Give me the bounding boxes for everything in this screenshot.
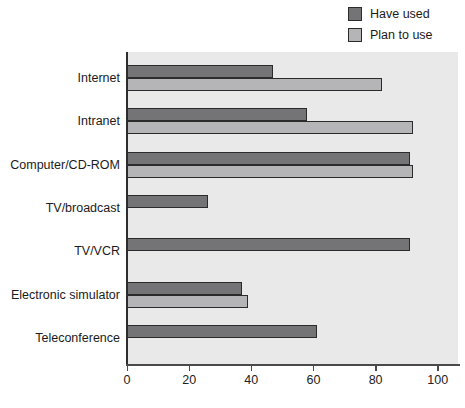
category-label-internet: Internet: [0, 70, 120, 86]
bar-have-used-intranet: [127, 108, 307, 121]
legend-item-plan-to-use: Plan to use: [348, 28, 433, 42]
legend-item-have-used: Have used: [348, 7, 433, 21]
category-label-computer-cd-rom: Computer/CD-ROM: [0, 157, 120, 173]
y-axis-line: [126, 52, 128, 365]
x-tick-mark-0: [127, 366, 129, 371]
x-tick-label-60: 60: [293, 373, 333, 387]
x-tick-label-40: 40: [231, 373, 271, 387]
plot-area: 020406080100: [127, 52, 458, 365]
bar-have-used-computer-cd-rom: [127, 152, 410, 165]
category-label-intranet: Intranet: [0, 113, 120, 129]
x-tick-mark-100: [437, 366, 439, 371]
bar-have-used-electronic-simulator: [127, 282, 242, 295]
legend-swatch-plan-to-use: [348, 28, 362, 42]
legend-swatch-have-used: [348, 7, 362, 21]
x-tick-label-20: 20: [169, 373, 209, 387]
x-tick-label-100: 100: [418, 373, 458, 387]
category-label-tv-broadcast: TV/broadcast: [0, 200, 120, 216]
bar-plan-to-use-intranet: [127, 121, 413, 134]
x-tick-label-80: 80: [356, 373, 396, 387]
bar-have-used-internet: [127, 65, 273, 78]
legend-label-have-used: Have used: [370, 7, 430, 21]
category-label-teleconference: Teleconference: [0, 330, 120, 346]
category-label-electronic-simulator: Electronic simulator: [0, 287, 120, 303]
bar-plan-to-use-computer-cd-rom: [127, 165, 413, 178]
bar-chart-figure: Have used Plan to use 020406080100 Inter…: [0, 0, 465, 408]
legend-label-plan-to-use: Plan to use: [370, 28, 433, 42]
x-tick-mark-20: [189, 366, 191, 371]
x-axis-line: [126, 364, 460, 366]
bar-have-used-tv-broadcast: [127, 195, 208, 208]
x-tick-mark-80: [375, 366, 377, 371]
category-label-tv-vcr: TV/VCR: [0, 243, 120, 259]
bar-have-used-tv-vcr: [127, 238, 410, 251]
x-tick-mark-40: [251, 366, 253, 371]
bar-plan-to-use-internet: [127, 78, 382, 91]
bar-plan-to-use-electronic-simulator: [127, 295, 248, 308]
x-tick-mark-60: [313, 366, 315, 371]
x-tick-label-0: 0: [107, 373, 147, 387]
legend: Have used Plan to use: [348, 7, 433, 49]
bar-have-used-teleconference: [127, 325, 317, 338]
